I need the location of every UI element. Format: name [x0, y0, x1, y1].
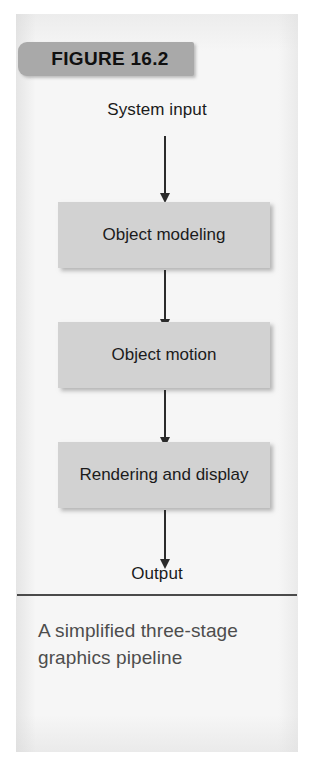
system-input-label: System input: [16, 100, 298, 120]
stage-box-rendering-and-display: Rendering and display: [58, 442, 270, 508]
stage-box-object-modeling: Object modeling: [58, 202, 270, 268]
caption-divider: [17, 594, 297, 596]
figure-number-label: FIGURE 16.2: [43, 48, 168, 70]
arrow-rendering-to-output: [164, 510, 166, 560]
output-label: Output: [16, 564, 298, 584]
figure-number-banner: FIGURE 16.2: [18, 42, 194, 76]
arrow-object-motion-to-rendering: [164, 390, 166, 438]
arrow-object-modeling-to-object-motion: [164, 270, 166, 320]
figure-panel: FIGURE 16.2 System input Object modeling…: [16, 14, 298, 752]
figure-caption: A simplified three-stage graphics pipeli…: [38, 618, 278, 672]
flow-diagram: System input Object modeling Object moti…: [16, 84, 298, 594]
arrow-input-to-object-modeling: [164, 136, 166, 194]
stage-box-object-motion: Object motion: [58, 322, 270, 388]
